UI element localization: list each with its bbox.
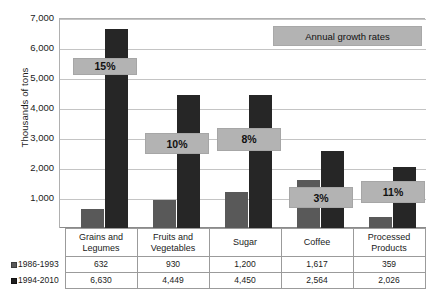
y-axis-tick-labels: 7,0006,0005,0004,0003,0002,0001,000 bbox=[6, 0, 54, 240]
square-gray-icon bbox=[11, 262, 17, 268]
y-tick-4000: 4,000 bbox=[8, 103, 54, 113]
growth-rate-label-1: 15% bbox=[73, 58, 137, 75]
y-tick-7000: 7,000 bbox=[8, 13, 54, 23]
table-cell-r2-c1: 6,630 bbox=[65, 273, 137, 289]
table-row: 1986-19936329301,2001,617359 bbox=[9, 257, 425, 273]
data-table: Grains and LegumesFruits and VegetablesS… bbox=[9, 228, 426, 289]
bar-1986-1993-2 bbox=[153, 200, 176, 228]
y-tick-5000: 5,000 bbox=[8, 73, 54, 83]
table-cell-r1-c4: 1,617 bbox=[281, 257, 353, 273]
growth-rate-label-3: 8% bbox=[217, 128, 281, 151]
table-cell-r1-c2: 930 bbox=[137, 257, 209, 273]
table-cell-r2-c2: 4,449 bbox=[137, 273, 209, 289]
annual-growth-rates-legend-label: Annual growth rates bbox=[305, 31, 390, 42]
growth-rate-label-4: 3% bbox=[289, 187, 353, 208]
bar-1994-2010-2 bbox=[177, 95, 200, 228]
chart-figure: Thousands of tons 7,0006,0005,0004,0003,… bbox=[0, 0, 433, 305]
table-row: 1994-20106,6304,4494,4502,5642,026 bbox=[9, 273, 425, 289]
bar-group-2 bbox=[141, 18, 213, 228]
table-col-header-5: Processed Products bbox=[353, 229, 425, 257]
table-col-header-1: Grains and Legumes bbox=[65, 229, 137, 257]
y-tick-2000: 2,000 bbox=[8, 163, 54, 173]
growth-rate-label-2: 10% bbox=[145, 133, 209, 154]
bar-group-3 bbox=[213, 18, 285, 228]
table-cell-r1-c5: 359 bbox=[353, 257, 425, 273]
y-tick-1000: 1,000 bbox=[8, 193, 54, 203]
table-row-header-1: 1986-1993 bbox=[9, 257, 65, 273]
series-key-label-1: 1986-1993 bbox=[18, 259, 59, 269]
table-header-row: Grains and LegumesFruits and VegetablesS… bbox=[9, 229, 425, 257]
annual-growth-rates-legend: Annual growth rates bbox=[273, 26, 422, 46]
plot-area: 15%10%8%3%11% bbox=[59, 18, 425, 228]
table-cell-r2-c3: 4,450 bbox=[209, 273, 281, 289]
table-cell-r1-c1: 632 bbox=[65, 257, 137, 273]
table-col-header-3: Sugar bbox=[209, 229, 281, 257]
bar-1986-1993-5 bbox=[369, 217, 392, 228]
growth-rate-label-5: 11% bbox=[361, 181, 425, 203]
table-col-header-2: Fruits and Vegetables bbox=[137, 229, 209, 257]
table-cell-r2-c4: 2,564 bbox=[281, 273, 353, 289]
bar-group-1 bbox=[69, 18, 141, 228]
square-black-icon bbox=[11, 278, 17, 284]
table-cell-r2-c5: 2,026 bbox=[353, 273, 425, 289]
table-row-header-2: 1994-2010 bbox=[9, 273, 65, 289]
y-tick-6000: 6,000 bbox=[8, 43, 54, 53]
y-tick-3000: 3,000 bbox=[8, 133, 54, 143]
bar-1986-1993-1 bbox=[81, 209, 104, 228]
table-col-header-4: Coffee bbox=[281, 229, 353, 257]
bar-1994-2010-3 bbox=[249, 95, 272, 229]
table-cell-r1-c3: 1,200 bbox=[209, 257, 281, 273]
series-key-label-2: 1994-2010 bbox=[18, 275, 59, 285]
bar-1986-1993-3 bbox=[225, 192, 248, 228]
table-corner-blank bbox=[9, 229, 65, 257]
